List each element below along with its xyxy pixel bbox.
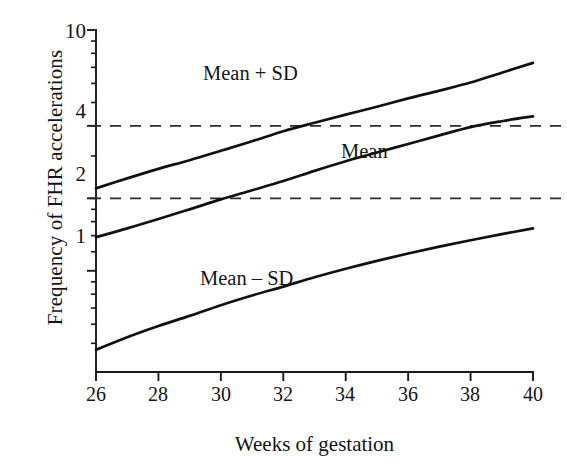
x-tick-label-28: 28	[135, 383, 181, 406]
series-label-mean-minus-sd: Mean – SD	[200, 267, 293, 290]
x-tick-label-40: 40	[510, 383, 556, 406]
x-tick-label-38: 38	[447, 383, 493, 406]
series-path-1	[96, 116, 533, 237]
x-axis-title: Weeks of gestation	[96, 432, 533, 457]
x-tick-label-26: 26	[73, 383, 119, 406]
y-tick-label-10: 10	[46, 19, 86, 44]
series-path-2	[96, 228, 533, 349]
chart-figure: Frequency of FHR accelerations 10 4 2 1 …	[0, 0, 567, 473]
x-tick-label-32: 32	[260, 383, 306, 406]
series-label-mean-plus-sd: Mean + SD	[203, 62, 298, 85]
x-tick-label-30: 30	[198, 383, 244, 406]
dashed-reference-lines	[90, 126, 563, 198]
x-tick-label-34: 34	[322, 383, 368, 406]
y-tick-label-4: 4	[46, 99, 86, 124]
y-axis-title: Frequency of FHR accelerations	[43, 0, 68, 378]
series-lines	[96, 63, 533, 350]
y-tick-label-1: 1	[46, 224, 86, 249]
y-tick-label-2: 2	[46, 162, 86, 187]
x-tick-label-36: 36	[385, 383, 431, 406]
series-label-mean: Mean	[341, 140, 388, 163]
